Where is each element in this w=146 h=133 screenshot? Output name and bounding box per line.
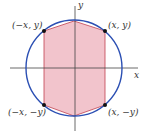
- y-axis-label: y: [78, 0, 83, 10]
- inscribed-hexagon: [44, 21, 105, 116]
- point-label: (−x, −y): [8, 107, 46, 117]
- point-dot: [42, 29, 46, 33]
- x-axis-label: x: [134, 70, 139, 80]
- point-label: (x, −y): [108, 107, 138, 117]
- point-label: (−x, y): [12, 20, 42, 30]
- point-label: (x, y): [108, 20, 131, 30]
- point-dot: [103, 29, 107, 33]
- point-dot: [103, 103, 107, 107]
